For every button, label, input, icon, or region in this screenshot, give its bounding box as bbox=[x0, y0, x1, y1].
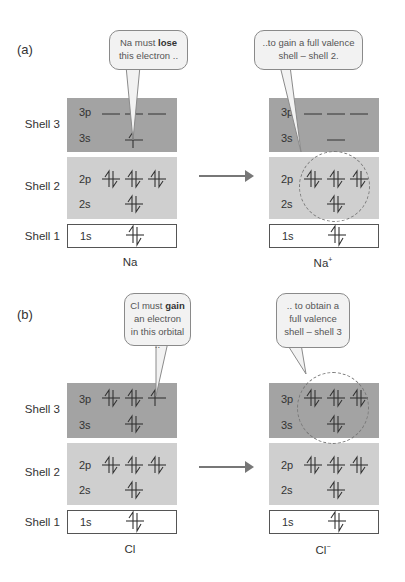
callout-gain-full-shell-2: ..to gain a full valence shell – shell 2… bbox=[254, 30, 363, 70]
shell-1-label: Shell 1 bbox=[0, 516, 60, 528]
1s-paired-electrons-icon bbox=[328, 222, 350, 248]
1s-paired-electrons-icon bbox=[328, 508, 350, 534]
full-valence-shell-highlight bbox=[299, 151, 370, 222]
species-label-na: Na bbox=[100, 256, 160, 268]
callout-obtain-full-shell-3: .. to obtain a full valence shell – shel… bbox=[276, 293, 350, 348]
shell-1-label: Shell 1 bbox=[0, 230, 60, 242]
orbital-2s-label: 2s bbox=[281, 198, 293, 210]
3s-empty-orbital-icon bbox=[325, 128, 347, 150]
shell-2-label: Shell 2 bbox=[0, 466, 60, 478]
part-a-label: (a) bbox=[17, 42, 33, 57]
orbital-3s-label: 3s bbox=[79, 132, 91, 144]
callout-tail bbox=[120, 66, 150, 144]
orbital-2p-label: 2p bbox=[79, 173, 91, 185]
orbital-1s-label: 1s bbox=[80, 516, 92, 528]
callout-tail bbox=[285, 344, 315, 378]
shell-2-band: 2p 2s bbox=[67, 443, 177, 505]
shell-1-box: 1s bbox=[269, 510, 379, 534]
arrow-head-icon bbox=[245, 461, 255, 473]
orbital-2s-label: 2s bbox=[79, 484, 91, 496]
orbital-3p-label: 3p bbox=[79, 393, 91, 405]
species-label-cl: Cl bbox=[100, 543, 160, 555]
shell-3-label: Shell 3 bbox=[0, 403, 60, 415]
cl-orbital-diagram: 3p 3s 2p 2s bbox=[67, 383, 177, 534]
orbital-2p-label: 2p bbox=[281, 173, 293, 185]
part-b-label: (b) bbox=[17, 307, 33, 322]
shell-1-box: 1s bbox=[269, 224, 379, 248]
2s-paired-electrons-icon bbox=[125, 192, 147, 216]
1s-paired-electrons-icon bbox=[126, 508, 148, 534]
3s-paired-electrons-icon bbox=[125, 412, 147, 436]
species-label-na-ion: Na+ bbox=[293, 256, 353, 269]
orbital-3p-label: 3p bbox=[281, 393, 293, 405]
orbital-2p-label: 2p bbox=[281, 459, 293, 471]
3p-empty-orbitals-icon bbox=[304, 102, 374, 122]
callout-cl-gain-electron: Cl must gain an electron in this orbital… bbox=[124, 293, 191, 346]
orbital-2p-label: 2p bbox=[79, 459, 91, 471]
orbital-2s-label: 2s bbox=[79, 198, 91, 210]
orbital-3s-label: 3s bbox=[79, 419, 91, 431]
2p-paired-electrons-icon bbox=[304, 453, 376, 477]
2p-paired-electrons-icon bbox=[102, 167, 174, 191]
orbital-1s-label: 1s bbox=[80, 230, 92, 242]
cl-ion-orbital-diagram: 3p 3s 2p 2s bbox=[269, 383, 379, 534]
callout-tail bbox=[276, 66, 306, 156]
shell-2-band: 2p 2s bbox=[67, 157, 177, 219]
full-valence-shell-highlight bbox=[297, 372, 369, 444]
shell-1-box: 1s bbox=[67, 224, 177, 248]
orbital-3p-label: 3p bbox=[79, 106, 91, 118]
orbital-3s-label: 3s bbox=[281, 419, 293, 431]
callout-tail bbox=[148, 342, 178, 400]
orbital-1s-label: 1s bbox=[282, 230, 294, 242]
arrow-head-icon bbox=[245, 170, 255, 182]
2s-paired-electrons-icon bbox=[327, 478, 349, 502]
species-label-cl-ion: Cl− bbox=[293, 543, 353, 556]
2s-paired-electrons-icon bbox=[125, 478, 147, 502]
shell-1-box: 1s bbox=[67, 510, 177, 534]
orbital-1s-label: 1s bbox=[282, 516, 294, 528]
shell-3-label: Shell 3 bbox=[0, 118, 60, 130]
reaction-arrow bbox=[199, 466, 247, 468]
reaction-arrow bbox=[199, 175, 247, 177]
1s-paired-electrons-icon bbox=[126, 222, 148, 248]
orbital-2s-label: 2s bbox=[281, 484, 293, 496]
shell-2-band: 2p 2s bbox=[269, 443, 379, 505]
callout-na-lose-electron: Na must lose this electron .. bbox=[109, 30, 188, 70]
shell-2-label: Shell 2 bbox=[0, 180, 60, 192]
2p-paired-electrons-icon bbox=[102, 453, 174, 477]
